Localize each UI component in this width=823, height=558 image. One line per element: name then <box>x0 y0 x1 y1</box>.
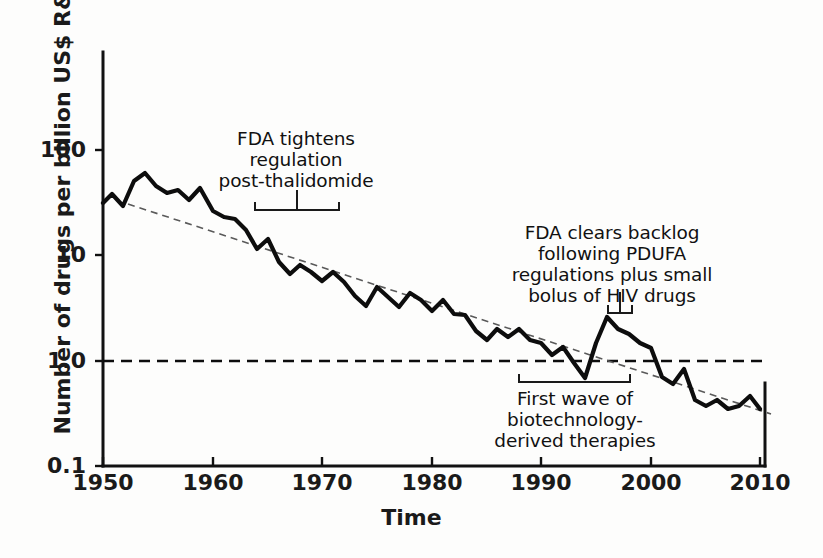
y-axis-title-text: Number of drugs per billion US$ R&D spen… <box>50 0 75 435</box>
x-tick-label-2000: 2000 <box>606 470 696 495</box>
x-tick-label-1960: 1960 <box>168 470 258 495</box>
bracket-biotech <box>519 374 630 382</box>
annotation-biotech: First wave of biotechnology- derived the… <box>470 388 680 451</box>
annotation-fda-thalidomide: FDA tightens regulation post-thalidomide <box>196 128 396 191</box>
x-tick-label-1950: 1950 <box>58 470 148 495</box>
x-tick-label-2010: 2010 <box>715 470 805 495</box>
x-tick-label-1970: 1970 <box>277 470 367 495</box>
chart-figure: 100 10 1.0 0.1 1950 1960 1970 1980 1990 … <box>0 0 823 558</box>
x-axis-title: Time <box>0 505 823 530</box>
x-tick-label-1990: 1990 <box>496 470 586 495</box>
x-axis-title-text: Time <box>381 505 441 530</box>
x-tick-label-1980: 1980 <box>387 470 477 495</box>
annotation-pdufa: FDA clears backlog following PDUFA regul… <box>484 222 740 306</box>
bracket-fda-thalidomide <box>255 190 339 210</box>
y-axis-title: Number of drugs per billion US$ R&D spen… <box>50 15 75 435</box>
